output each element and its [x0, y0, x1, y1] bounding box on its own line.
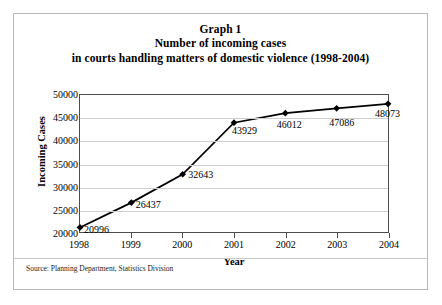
x-axis-tick-label: 2001 [209, 239, 259, 250]
data-point-label: 43929 [232, 125, 257, 136]
chart-region: Incoming Cases 5000045000400003500030000… [14, 74, 429, 259]
y-axis-tick-label: 50000 [32, 89, 78, 100]
x-axis-tick-label: 1999 [106, 239, 156, 250]
data-point-marker [333, 105, 340, 112]
data-point-label: 47086 [329, 117, 354, 128]
x-axis-tick-mark [182, 233, 183, 238]
gridline [80, 211, 388, 212]
gridline [80, 141, 388, 142]
data-point-marker [128, 199, 135, 206]
x-axis-tick-label: 2003 [312, 239, 362, 250]
source-note: Source: Planning Department, Statistics … [26, 264, 173, 273]
gridline [80, 165, 388, 166]
y-axis-tick-label: 45000 [32, 112, 78, 123]
y-axis-tick-label: 25000 [32, 204, 78, 215]
x-axis-tick-mark [234, 233, 235, 238]
x-axis-tick-mark [389, 233, 390, 238]
y-axis-tick-label: 30000 [32, 181, 78, 192]
footer-divider [14, 258, 427, 259]
x-axis-tick-mark [131, 233, 132, 238]
data-point-label: 46012 [277, 119, 302, 130]
x-axis-tick-label: 2004 [364, 239, 414, 250]
x-axis-tick-label: 1998 [54, 239, 104, 250]
x-axis-tick-labels: 1998199920002001200220032004 [79, 239, 389, 255]
y-axis-tick-label: 20000 [32, 228, 78, 239]
data-point-marker [282, 110, 289, 117]
x-axis-tick-mark [286, 233, 287, 238]
chart-title-block: Graph 1 Number of incoming cases in cour… [14, 22, 427, 65]
chart-title-line-3: in courts handling matters of domestic v… [14, 51, 427, 65]
x-axis-tick-mark [337, 233, 338, 238]
gridline [80, 188, 388, 189]
data-point-label: 26437 [136, 199, 161, 210]
y-axis-tick-labels: 50000450004000035000300002500020000 [32, 94, 78, 233]
chart-title-line-2: Number of incoming cases [14, 36, 427, 50]
y-axis-tick-label: 35000 [32, 158, 78, 169]
x-axis-tick-label: 2002 [261, 239, 311, 250]
document-page-frame: Graph 1 Number of incoming cases in cour… [13, 13, 428, 290]
data-point-label: 20996 [84, 224, 109, 235]
data-point-marker [385, 100, 392, 107]
data-point-label: 32643 [188, 169, 213, 180]
chart-title-line-1: Graph 1 [14, 22, 427, 36]
data-point-label: 48073 [375, 108, 400, 119]
y-axis-tick-label: 40000 [32, 135, 78, 146]
plot-area [79, 94, 389, 233]
x-axis-tick-label: 2000 [157, 239, 207, 250]
